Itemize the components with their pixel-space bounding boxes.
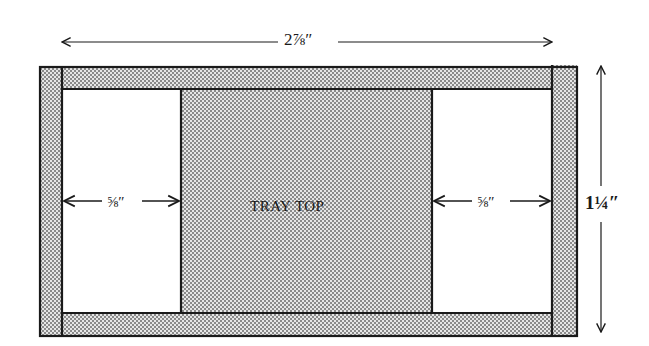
center-panel-label: TRAY TOP — [250, 199, 324, 214]
left-stile — [40, 67, 62, 336]
left-gap-label: ⅝″ — [104, 195, 128, 210]
bottom-rail — [40, 313, 577, 336]
tray-top-diagram — [0, 0, 649, 346]
top-rail — [40, 67, 577, 90]
overall-height-label: 1¼″ — [585, 193, 619, 212]
right-stile — [552, 65, 577, 336]
right-gap-label: ⅝″ — [474, 195, 498, 210]
overall-width-label: 2⅞″ — [280, 31, 316, 48]
